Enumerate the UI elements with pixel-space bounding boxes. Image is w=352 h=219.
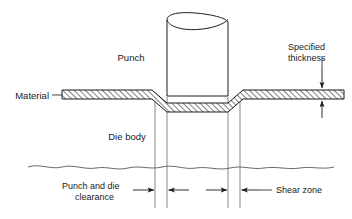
label-punch: Punch (118, 52, 145, 63)
diagram-canvas: Punch Material Die body Specified thickn… (0, 0, 352, 219)
label-die-body: Die body (108, 131, 146, 142)
label-punch-and-die-clearance-line2: clearance (75, 192, 114, 202)
label-specified-thickness-line1: Specified (288, 42, 325, 52)
label-specified-thickness-line2: thickness (288, 53, 326, 63)
punch-body (167, 13, 228, 96)
label-material: Material (15, 90, 49, 101)
die-body-break-line (28, 166, 334, 169)
figure-container: Punch Material Die body Specified thickn… (0, 0, 352, 219)
break-line-wave (28, 166, 334, 169)
label-punch-and-die-clearance-line1: Punch and die (62, 181, 120, 191)
clearance-reference-lines (155, 97, 240, 208)
label-shear-zone: Shear zone (276, 185, 322, 195)
